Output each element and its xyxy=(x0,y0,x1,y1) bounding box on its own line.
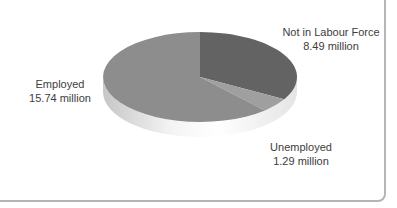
label-employed: Employed 15.74 million xyxy=(12,77,108,105)
screen: Not in Labour Force 8.49 million Employe… xyxy=(0,0,397,208)
label-unemployed-value: 1.29 million xyxy=(249,154,353,168)
label-unemployed: Unemployed 1.29 million xyxy=(249,140,353,168)
label-not-in-labour-force-value: 8.49 million xyxy=(268,39,394,53)
label-employed-name: Employed xyxy=(12,77,108,91)
label-employed-value: 15.74 million xyxy=(12,91,108,105)
label-not-in-labour-force-name: Not in Labour Force xyxy=(268,25,394,39)
label-not-in-labour-force: Not in Labour Force 8.49 million xyxy=(268,25,394,53)
label-unemployed-name: Unemployed xyxy=(249,140,353,154)
